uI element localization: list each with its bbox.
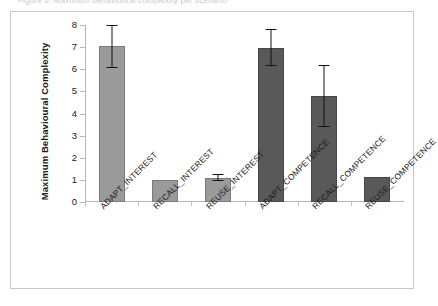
error-bar <box>271 29 272 64</box>
y-tick-label: 7 <box>55 42 77 52</box>
y-tick <box>80 136 85 137</box>
y-tick-label: 3 <box>55 131 77 141</box>
y-tick-label: 0 <box>55 197 77 207</box>
bar-slot <box>152 25 178 202</box>
figure-caption-sliver: Figure 6: Maximum behavioural complexity… <box>18 0 410 5</box>
bar-slot <box>364 25 390 202</box>
bar[interactable] <box>99 46 125 202</box>
y-tick-label: 5 <box>55 87 77 97</box>
error-cap-lower <box>106 67 117 68</box>
x-axis-labels: ADAPT_INTERESTRECALL_INTERESTREUSE_INTER… <box>85 204 415 286</box>
bar-slot <box>311 25 337 202</box>
y-tick <box>80 91 85 92</box>
y-tick <box>80 69 85 70</box>
bar-slot <box>99 25 125 202</box>
y-tick <box>80 158 85 159</box>
y-tick-label: 1 <box>55 175 77 185</box>
bar-slot <box>258 25 284 202</box>
y-tick-label: 6 <box>55 65 77 75</box>
figure-frame: Maximum Behavioural Complexity 012345678… <box>10 11 414 289</box>
y-tick <box>80 180 85 181</box>
y-tick-label: 4 <box>55 109 77 119</box>
error-cap-lower <box>319 126 330 127</box>
error-cap-lower <box>266 65 277 66</box>
error-cap-upper <box>266 29 277 30</box>
y-tick <box>80 25 85 26</box>
y-axis-title: Maximum Behavioural Complexity <box>39 33 50 211</box>
error-cap-lower <box>212 180 223 181</box>
y-tick-label: 2 <box>55 153 77 163</box>
error-bar <box>111 25 112 67</box>
error-bar <box>324 65 325 126</box>
y-tick <box>80 114 85 115</box>
y-axis-line <box>85 25 86 202</box>
error-cap-upper <box>212 174 223 175</box>
y-tick-label: 8 <box>55 20 77 30</box>
bar-slot <box>205 25 231 202</box>
y-tick <box>80 47 85 48</box>
error-cap-upper <box>106 25 117 26</box>
error-cap-upper <box>319 65 330 66</box>
